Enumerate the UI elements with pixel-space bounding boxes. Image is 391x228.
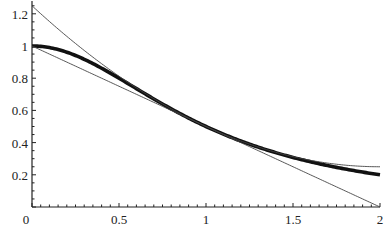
x-tick-label: 1.5 bbox=[285, 212, 301, 227]
y-tick-label: 0.2 bbox=[12, 168, 28, 183]
plot-curves bbox=[32, 6, 380, 207]
y-tick-label: 1 bbox=[22, 39, 29, 54]
x-tick-label: 2 bbox=[377, 212, 384, 227]
quadratic-approx-curve bbox=[32, 6, 380, 167]
x-tick-label: 0 bbox=[23, 212, 30, 227]
y-tick-label: 0.8 bbox=[12, 71, 28, 86]
x-tick-label: 1 bbox=[203, 212, 210, 227]
function-curve bbox=[32, 46, 380, 175]
y-tick-label: 0.6 bbox=[12, 103, 29, 118]
y-tick-label: 1.2 bbox=[12, 7, 28, 22]
y-tick-label: 0.4 bbox=[12, 136, 29, 151]
x-tick-label: 0.5 bbox=[111, 212, 127, 227]
line-chart: 00.511.520.20.40.60.811.2 bbox=[0, 0, 391, 228]
axes bbox=[32, 1, 380, 207]
tick-labels: 00.511.520.20.40.60.811.2 bbox=[12, 7, 384, 227]
